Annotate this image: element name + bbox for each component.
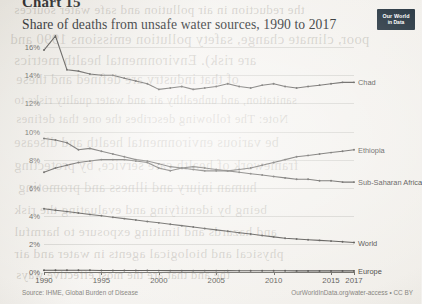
data-point (123, 156, 125, 158)
data-point (55, 139, 57, 141)
data-point (123, 77, 125, 79)
data-point (123, 218, 125, 220)
data-point (342, 81, 344, 83)
data-point (296, 156, 298, 158)
data-point (204, 170, 206, 172)
data-point (55, 209, 57, 211)
data-point (307, 178, 309, 180)
data-point (169, 170, 171, 172)
data-point (342, 181, 344, 183)
data-point (238, 86, 240, 88)
data-point (77, 161, 79, 163)
data-point (250, 167, 252, 169)
data-point (77, 70, 79, 72)
data-point (43, 208, 45, 210)
data-point (307, 239, 309, 241)
x-axis-tick-label: 1995 (93, 276, 110, 285)
x-axis-tick (44, 272, 45, 275)
data-point (66, 142, 68, 144)
gridline (44, 103, 354, 104)
data-point (319, 153, 321, 155)
data-point (319, 84, 321, 86)
series-label-ethiopia: Ethiopia (358, 145, 385, 154)
data-point (296, 178, 298, 180)
gridline (44, 216, 354, 217)
data-point (319, 239, 321, 241)
data-point (77, 149, 79, 151)
data-point (43, 138, 45, 140)
data-point (342, 241, 344, 243)
series-label-europe: Europe (358, 266, 382, 275)
data-point (192, 166, 194, 168)
data-point (250, 233, 252, 235)
data-point (100, 150, 102, 152)
data-point (296, 87, 298, 89)
data-point (330, 152, 332, 154)
series-lines (44, 36, 354, 272)
x-axis-tick (354, 272, 355, 275)
data-point (169, 223, 171, 225)
data-point (215, 86, 217, 88)
data-point (158, 88, 160, 90)
data-point (43, 171, 45, 173)
data-point (273, 236, 275, 238)
credit-note: OurWorldInData.org/water-access • CC BY (291, 289, 413, 296)
x-axis-tick-label: 2015 (322, 276, 339, 285)
data-point (284, 177, 286, 179)
x-axis-tick (159, 272, 160, 275)
data-point (55, 269, 57, 271)
data-point (215, 229, 217, 231)
data-point (192, 169, 194, 171)
data-point (66, 69, 68, 71)
x-axis-tick (216, 272, 217, 275)
x-axis-line (44, 272, 354, 273)
gridline (44, 188, 354, 189)
data-point (169, 87, 171, 89)
x-axis-tick-label: 2010 (265, 276, 282, 285)
data-point (204, 228, 206, 230)
data-point (330, 240, 332, 242)
data-point (181, 86, 183, 88)
gridline (44, 75, 354, 76)
data-point (273, 83, 275, 85)
data-point (135, 80, 137, 82)
data-point (284, 86, 286, 88)
data-point (353, 181, 355, 183)
data-point (181, 225, 183, 227)
data-point (296, 238, 298, 240)
data-point (261, 164, 263, 166)
data-point (238, 169, 240, 171)
data-point (43, 269, 45, 271)
y-axis-tick-label: 14% (25, 71, 40, 80)
data-point (55, 35, 57, 37)
data-point (307, 154, 309, 156)
data-point (169, 166, 171, 168)
x-axis-tick (101, 272, 102, 275)
y-axis-tick-label: 10% (25, 127, 40, 136)
data-point (330, 83, 332, 85)
data-point (215, 169, 217, 171)
series-label-world: World (358, 238, 377, 247)
data-point (353, 81, 355, 83)
data-point (181, 167, 183, 169)
y-axis-tick-label: 16% (25, 43, 40, 52)
y-axis-tick-label: 12% (25, 99, 40, 108)
x-axis-tick-label: 2000 (150, 276, 167, 285)
data-point (66, 164, 68, 166)
data-point (261, 174, 263, 176)
data-point (204, 87, 206, 89)
data-point (342, 150, 344, 152)
data-point (146, 161, 148, 163)
data-point (353, 149, 355, 151)
data-point (227, 170, 229, 172)
data-point (135, 219, 137, 221)
data-point (77, 269, 79, 271)
data-point (330, 180, 332, 182)
data-point (261, 84, 263, 86)
data-point (192, 226, 194, 228)
series-line (44, 36, 354, 89)
x-axis-tick (274, 272, 275, 275)
data-point (89, 147, 91, 149)
series-label-sub-saharan-africa: Sub-Saharan Africa (358, 178, 422, 187)
data-point (261, 235, 263, 237)
